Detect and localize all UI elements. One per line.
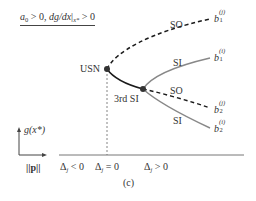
unstable-branch-segment <box>107 69 143 89</box>
tick-delta-positive: Δj > 0 <box>144 162 168 174</box>
condition-header: a0 > 0, dg/dx|x* > 0 <box>20 12 95 26</box>
endpoint-b2-j: b(j)2 <box>214 103 229 115</box>
endpoint-b1-i: b(i)1 <box>214 51 229 63</box>
third-si-point <box>140 86 146 92</box>
usn-point <box>104 66 110 72</box>
panel-label: (c) <box>123 178 134 188</box>
endpoint-b1-j: b(j)1 <box>214 12 229 24</box>
so-upper-label: SO <box>170 20 183 30</box>
so-lower-label: SO <box>170 86 183 96</box>
si-upper-label: SI <box>173 58 182 68</box>
third-si-label: 3rd SI <box>114 94 139 104</box>
y-axis-label: g(x*) <box>24 125 45 135</box>
tick-delta-negative: Δj < 0 <box>60 162 84 174</box>
tick-delta-zero: Δj = 0 <box>95 162 119 174</box>
x-axis-label: ||p|| <box>26 163 40 173</box>
usn-label: USN <box>80 64 100 74</box>
si-lower-label: SI <box>173 116 182 126</box>
endpoint-b2-i: b(i)2 <box>214 122 229 134</box>
